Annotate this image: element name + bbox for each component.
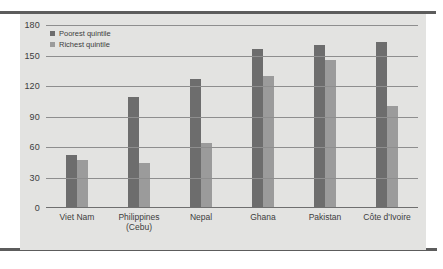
bar [325,60,336,208]
y-axis-tick-label: 180 [24,20,40,30]
chart-legend: Poorest quintile Richest quintile [50,29,111,51]
legend-swatch-icon-poorest [50,31,55,36]
legend-label-richest: Richest quintile [59,40,110,49]
x-axis-label-line: Ghana [232,212,294,222]
x-axis-category-label: Viet Nam [46,212,108,232]
bar [66,155,77,208]
bar [190,79,201,208]
bar [387,106,398,208]
gridline [46,25,418,26]
x-axis-category-label: Pakistan [294,212,356,232]
y-axis-tick-label: 120 [24,81,40,91]
x-axis-category-label: Nepal [170,212,232,232]
bar [263,76,274,208]
y-axis-tick-label: 90 [30,112,40,122]
x-axis-label-line: Viet Nam [46,212,108,222]
bar [376,42,387,208]
gridline [46,147,418,148]
y-axis-tick-label: 0 [35,203,40,213]
x-axis-label-line: Philippines [108,212,170,222]
x-axis-category-label: Ghana [232,212,294,232]
gridline [46,178,418,179]
legend-item-richest: Richest quintile [50,40,111,49]
x-axis-label-line: Nepal [170,212,232,222]
bar [128,97,139,208]
bar [252,49,263,208]
x-axis-labels: Viet NamPhilippines(Cebu)NepalGhanaPakis… [46,212,418,232]
x-axis-category-label: Philippines(Cebu) [108,212,170,232]
plot-area: 0306090120150180 [46,25,418,208]
legend-item-poorest: Poorest quintile [50,29,111,38]
y-axis-tick-label: 30 [30,173,40,183]
bar [314,45,325,208]
gridline [46,56,418,57]
bar [77,160,88,208]
legend-swatch-icon-richest [50,42,55,47]
x-axis-label-line: (Cebu) [108,222,170,232]
legend-label-poorest: Poorest quintile [59,29,111,38]
x-axis-label-line: Pakistan [294,212,356,222]
x-axis-label-line: Côte d'Ivoire [356,212,418,222]
gridline [46,117,418,118]
x-axis-line [46,207,418,208]
chart-figure: 0306090120150180 Viet NamPhilippines(Ceb… [0,0,443,269]
y-axis-tick-label: 60 [30,142,40,152]
bar [201,143,212,208]
gridline [46,86,418,87]
bar [139,163,150,208]
y-axis-tick-label: 150 [24,51,40,61]
x-axis-category-label: Côte d'Ivoire [356,212,418,232]
